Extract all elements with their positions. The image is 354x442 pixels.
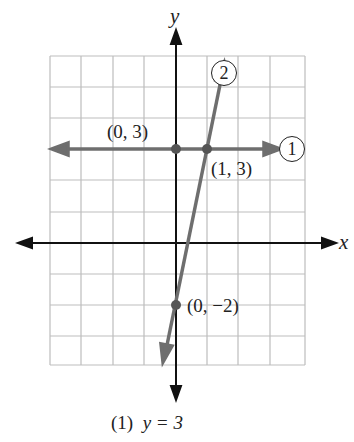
point-label-0-neg2: (0, −2)	[187, 296, 239, 315]
axes	[18, 30, 336, 400]
graph	[0, 0, 354, 442]
grid	[50, 56, 305, 365]
caption-equation: y = 3	[143, 412, 183, 433]
line-2-marker: 2	[211, 60, 237, 86]
point-label-0-3: (0, 3)	[107, 122, 148, 141]
caption-number: (1)	[111, 412, 133, 433]
x-axis-label: x	[339, 232, 348, 253]
line-1	[52, 143, 280, 155]
caption: (1) y = 3	[111, 413, 183, 432]
y-axis-label: y	[170, 6, 179, 27]
line-1-marker: 1	[279, 136, 305, 162]
point-label-1-3: (1, 3)	[211, 159, 252, 178]
